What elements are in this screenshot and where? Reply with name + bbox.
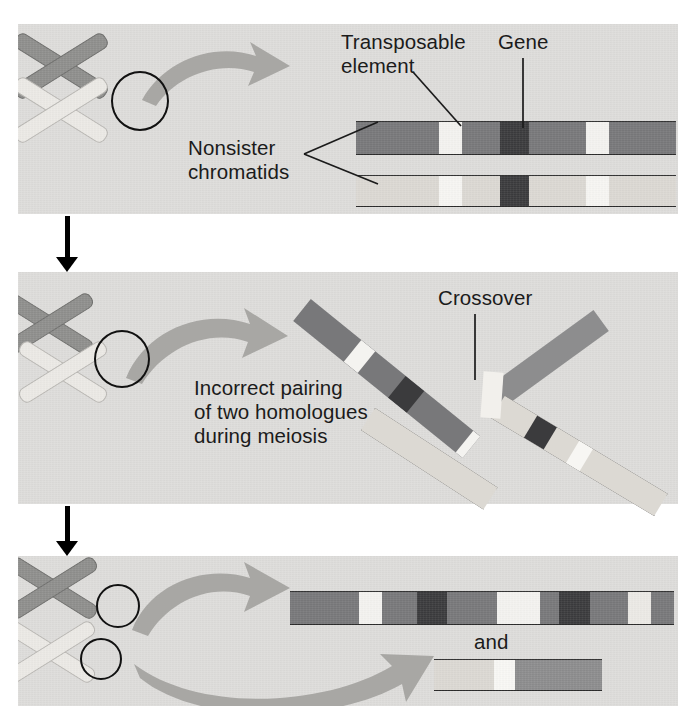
band-transposable-element	[439, 176, 461, 206]
highlight-circle-light-panel3	[80, 638, 122, 680]
highlight-circle-panel1	[111, 71, 169, 131]
chromatid-body	[434, 660, 602, 690]
band-gene	[559, 592, 590, 624]
highlight-circle-panel2	[94, 330, 150, 388]
band-transposable-element	[497, 592, 539, 624]
band-gene	[524, 415, 557, 449]
chromatid-body	[290, 592, 674, 624]
label-transposable-element: Transposable element	[341, 30, 466, 78]
band-transposable-element	[456, 431, 480, 458]
chromatid-short-recombinant	[434, 660, 602, 690]
band-transposable-element	[628, 592, 651, 624]
arrow-shaft	[65, 216, 70, 258]
leader-nonsister-chromatids	[304, 120, 380, 188]
panel-nonsister-chromatids: Transposable element Gene Nonsister chro…	[18, 24, 678, 214]
strand-body	[488, 310, 608, 407]
arrow-shaft	[65, 506, 70, 542]
label-gene: Gene	[498, 30, 549, 54]
band-gene	[500, 176, 529, 206]
panel-recombinant-products: and	[18, 556, 678, 706]
band-transposable-element	[586, 122, 608, 154]
leader-transposable-element	[413, 72, 473, 130]
leader-crossover	[470, 314, 480, 382]
chromatid-body	[356, 176, 676, 206]
label-nonsister-chromatids: Nonsister chromatids	[188, 136, 289, 184]
chromatid-body	[356, 122, 676, 154]
figure-root: Transposable element Gene Nonsister chro…	[0, 0, 696, 719]
chromatid-upper-panel1	[356, 122, 676, 154]
band-transposable-element	[359, 592, 382, 624]
label-incorrect-pairing: Incorrect pairing of two homologues duri…	[194, 376, 368, 448]
label-crossover: Crossover	[438, 286, 532, 310]
highlight-circle-dark-panel3	[96, 584, 140, 628]
flow-arrow-down-2	[56, 506, 78, 556]
crossover-junction	[480, 371, 503, 418]
strand-dark-upper-right	[488, 310, 608, 407]
flow-arrow-down-1	[56, 216, 78, 272]
band-transposable-element	[566, 441, 592, 471]
leader-gene	[518, 58, 528, 130]
chromatid-long-recombinant	[290, 592, 674, 624]
band-transposable-element	[344, 340, 375, 373]
arrow-head	[56, 257, 78, 272]
band-transposable-element	[494, 660, 514, 690]
label-and-connector: and	[474, 630, 509, 654]
zoom-arrow-lower-panel3	[130, 626, 440, 706]
band-gene	[388, 376, 424, 413]
band-transposable-element	[586, 176, 608, 206]
arrow-head	[56, 541, 78, 556]
band-dark-segment	[515, 660, 602, 690]
chromatid-lower-panel1	[356, 176, 676, 206]
band-gene	[417, 592, 448, 624]
